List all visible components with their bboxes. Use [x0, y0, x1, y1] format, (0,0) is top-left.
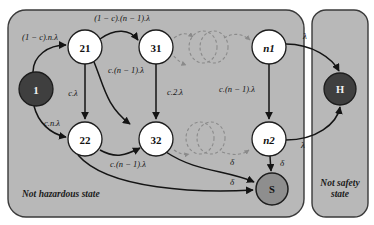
edge-label-1-to-22: c.n.λ — [44, 118, 60, 128]
edge-label-1-to-21: (1 − c).n.λ — [22, 32, 58, 42]
node-31-label: 31 — [151, 42, 162, 54]
region-not-safety-label-line1: Not safety — [319, 178, 360, 188]
node-22-label: 22 — [80, 134, 92, 146]
node-1[interactable]: 1 — [19, 72, 53, 106]
node-32[interactable]: 32 — [139, 122, 173, 156]
node-22[interactable]: 22 — [68, 122, 102, 156]
edge-label-31-to-32: c.2.λ — [167, 87, 183, 97]
edge-label-n1-to-n2: c.(n − 1).λ — [219, 84, 255, 94]
edge-n2-to-S — [270, 156, 271, 171]
region-not-safety: Not safety state — [312, 10, 368, 217]
node-n2-label: n2 — [263, 134, 275, 146]
node-S[interactable]: S — [256, 173, 288, 205]
node-H[interactable]: H — [324, 73, 356, 105]
region-not-hazardous-label: Not hazardous state — [21, 189, 100, 199]
diagram-canvas: Not hazardous state Not safety state — [0, 0, 374, 225]
edge-label-21-to-32: c.(n − 1).λ — [108, 65, 144, 75]
edge-label-n2-to-H: λ — [300, 140, 305, 150]
edge-label-22-to-32: c.(n − 1).λ — [110, 159, 146, 169]
node-n1-label: n1 — [263, 42, 275, 54]
edge-label-n1-to-H: λ — [302, 31, 307, 41]
node-n1[interactable]: n1 — [252, 30, 286, 64]
region-not-safety-label-line2: state — [330, 189, 350, 199]
node-32-label: 32 — [151, 134, 163, 146]
edge-label-21-to-31: (1 − c).(n − 1).λ — [94, 13, 150, 23]
node-21[interactable]: 21 — [68, 30, 102, 64]
edge-label-21-to-22: c.λ — [68, 88, 78, 98]
node-21-label: 21 — [80, 42, 91, 54]
node-n2[interactable]: n2 — [252, 122, 286, 156]
node-31[interactable]: 31 — [139, 30, 173, 64]
node-S-label: S — [269, 184, 275, 195]
node-1-label: 1 — [33, 84, 39, 96]
node-H-label: H — [336, 84, 344, 95]
